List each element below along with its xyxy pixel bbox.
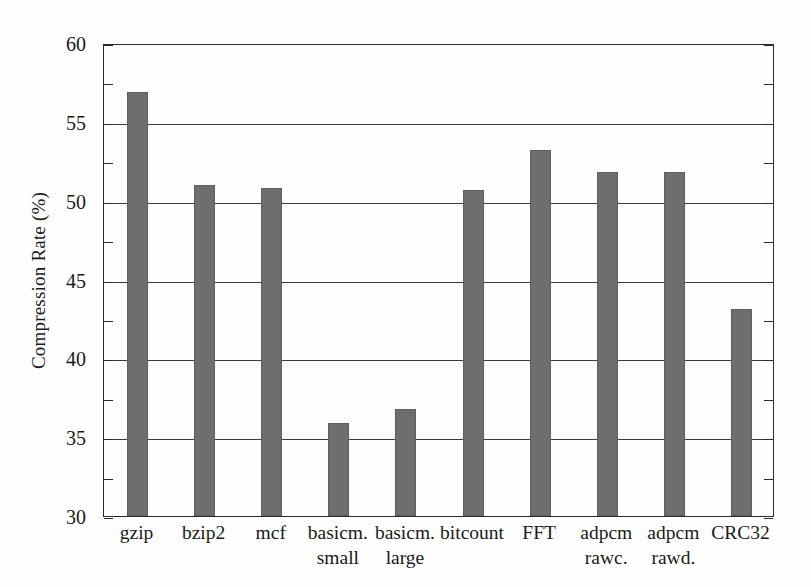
figure-canvas: Compression Rate (%) 30354045505560 gzip… <box>0 0 811 587</box>
tick-major-40 <box>104 360 113 361</box>
plot-area <box>103 44 774 517</box>
tick-major-50 <box>764 203 773 204</box>
tick-minor-37.5 <box>104 400 113 401</box>
tick-major-60 <box>764 45 773 46</box>
y-axis-tick-labels: 30354045505560 <box>0 44 94 517</box>
tick-minor-57.5 <box>764 84 773 85</box>
tick-major-55 <box>764 124 773 125</box>
y-tick-label-35: 35 <box>40 428 86 448</box>
tick-minor-42.5 <box>764 321 773 322</box>
tick-minor-52.5 <box>104 163 113 164</box>
tick-minor-47.5 <box>104 242 113 243</box>
y-tick-label-45: 45 <box>40 271 86 291</box>
tick-major-35 <box>104 439 113 440</box>
bar-basicm-large[interactable] <box>395 409 416 516</box>
bar-adpcm-rawd-[interactable] <box>664 172 685 516</box>
gridline-55 <box>104 124 773 125</box>
y-tick-label-60: 60 <box>40 34 86 54</box>
y-tick-label-30: 30 <box>40 507 86 527</box>
tick-minor-32.5 <box>764 479 773 480</box>
bar-crc32[interactable] <box>731 309 752 516</box>
x-tick-label-line1: FFT <box>522 522 556 543</box>
bar-adpcm-rawc-[interactable] <box>597 172 618 516</box>
tick-major-40 <box>764 360 773 361</box>
y-tick-label-50: 50 <box>40 192 86 212</box>
bar-basicm-small[interactable] <box>328 423 349 516</box>
bar-gzip[interactable] <box>127 92 148 516</box>
x-tick-label-line2: large <box>357 545 453 570</box>
tick-minor-42.5 <box>104 321 113 322</box>
x-tick-label-line1: bzip2 <box>182 522 225 543</box>
tick-major-30 <box>104 518 113 519</box>
tick-major-55 <box>104 124 113 125</box>
y-tick-label-55: 55 <box>40 113 86 133</box>
tick-major-45 <box>764 282 773 283</box>
tick-major-30 <box>764 518 773 519</box>
tick-minor-52.5 <box>764 163 773 164</box>
bar-bzip2[interactable] <box>194 185 215 516</box>
x-tick-label-line1: gzip <box>120 522 154 543</box>
x-tick-label-line2: rawd. <box>625 545 721 570</box>
tick-major-35 <box>764 439 773 440</box>
x-axis-tick-labels: gzipbzip2mcfbasicm.smallbasicm.largebitc… <box>103 520 774 586</box>
bar-bitcount[interactable] <box>463 190 484 516</box>
bar-fft[interactable] <box>530 150 551 516</box>
tick-minor-32.5 <box>104 479 113 480</box>
tick-minor-37.5 <box>764 400 773 401</box>
tick-major-50 <box>104 203 113 204</box>
tick-minor-47.5 <box>764 242 773 243</box>
tick-minor-57.5 <box>104 84 113 85</box>
x-tick-label-crc32: CRC32 <box>692 520 788 545</box>
x-tick-label-line1: mcf <box>256 522 286 543</box>
x-tick-label-line1: CRC32 <box>711 522 770 543</box>
tick-major-45 <box>104 282 113 283</box>
y-tick-label-40: 40 <box>40 349 86 369</box>
tick-major-60 <box>104 45 113 46</box>
bar-mcf[interactable] <box>261 188 282 516</box>
